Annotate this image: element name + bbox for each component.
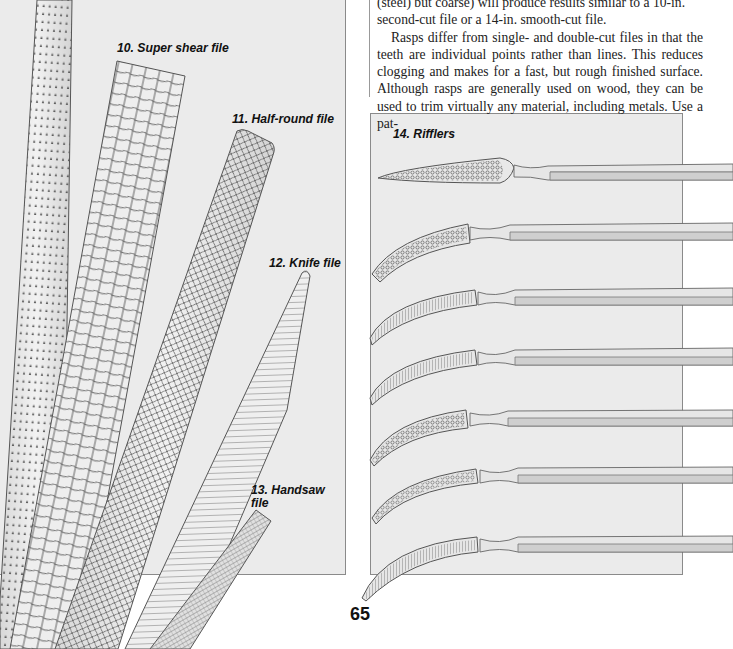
file-illustrations xyxy=(0,0,733,649)
riffler-3-illustration xyxy=(370,288,733,345)
caption-handsaw-line-2: file xyxy=(251,497,325,510)
riffler-7-illustration xyxy=(362,536,733,601)
caption-super-shear-file: 10. Super shear file xyxy=(117,42,229,55)
riffler-5-illustration xyxy=(370,410,733,466)
riffler-1-illustration xyxy=(378,158,733,183)
caption-half-round-file: 11. Half-round file xyxy=(232,113,334,126)
riffler-4-illustration xyxy=(370,348,733,405)
riffler-6-illustration xyxy=(372,467,733,524)
riffler-2-illustration xyxy=(372,223,733,282)
page-number: 65 xyxy=(350,604,370,625)
caption-rifflers: 14. Rifflers xyxy=(393,128,455,141)
caption-knife-file: 12. Knife file xyxy=(269,257,341,270)
caption-handsaw-file: 13. Handsaw file xyxy=(251,484,325,510)
